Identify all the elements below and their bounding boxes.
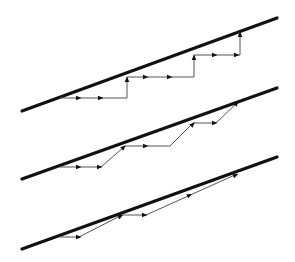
arrowhead-icon [76,235,82,240]
arrowhead-icon [186,192,193,198]
panel-long-diagonal-steps [22,157,277,249]
arrowhead-icon [97,165,103,170]
step-path [60,174,237,237]
boundary-line [22,88,277,179]
arrowhead-icon [189,121,196,128]
arrowhead-icon [76,96,82,101]
arrowhead-icon [98,96,104,101]
arrowhead-icon [143,75,149,80]
arrowhead-icon [212,121,218,126]
panel-axis-aligned-staircase [22,18,277,111]
panel-diagonal-staircase [22,88,277,179]
arrowhead-icon [167,75,173,80]
arrowhead-icon [76,165,82,170]
boundary-line [22,157,277,249]
boundary-line [22,18,277,111]
arrowhead-icon [212,53,218,58]
arrowhead-icon [142,213,148,218]
diagram-canvas [0,0,295,262]
arrowhead-icon [234,53,240,58]
arrowhead-icon [143,144,149,149]
